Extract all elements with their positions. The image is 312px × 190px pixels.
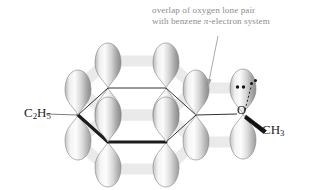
p-orbital-top-left-upper-lobe (95, 43, 121, 88)
annotation-arrow-shaft (209, 36, 218, 81)
p-orbital-top-right-upper-lobe (153, 43, 179, 88)
overlap-annotation-caption: overlap of oxygen lone pair with benzene… (152, 5, 310, 27)
p-orbital-left-upper-lobe (65, 70, 91, 115)
oxygen-lone-pair-dot-1 (236, 85, 239, 88)
p-orbital-bottom-right-lower-lobe (153, 142, 179, 187)
molecule-canvas (0, 0, 312, 190)
p-orbital-right-upper-lobe (183, 70, 209, 115)
oxygen-lone-pair-offset-dot-2 (254, 79, 257, 82)
p-orbital-right-lower-lobe (183, 115, 209, 160)
p-orbital-bottom-left-lower-lobe (95, 142, 121, 187)
annotation-line-2: with benzene π-electron system (152, 16, 310, 27)
annotation-line-1: overlap of oxygen lone pair (152, 5, 310, 16)
oxygen-lone-pair-offset-dot-1 (250, 82, 253, 85)
annotation-line-2-prefix: with benzene (152, 16, 204, 26)
methyl-substituent-label: CH3 (262, 122, 284, 138)
p-orbital-bottom-right-upper-lobe (153, 97, 179, 142)
bond-ring-to-oxygen (196, 114, 237, 115)
oxygen-atom-label: O (237, 103, 246, 118)
orbital-diagram-figure: overlap of oxygen lone pair with benzene… (0, 0, 312, 190)
annotation-arrow (206, 36, 218, 85)
oxygen-lone-pair-dot-2 (242, 85, 245, 88)
annotation-line-2-suffix: -electron system (208, 16, 269, 26)
ethyl-substituent-label: C2H5 (24, 105, 51, 121)
